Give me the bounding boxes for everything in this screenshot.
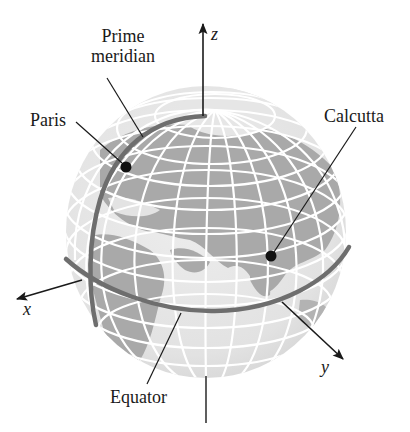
prime-meridian-label-line1: Prime	[70, 26, 176, 46]
prime-meridian-label-line2: meridian	[70, 46, 176, 66]
x-axis	[17, 280, 82, 299]
paris-dot	[121, 162, 132, 173]
x-axis-label: x	[23, 299, 31, 319]
y-axis-label: y	[321, 357, 329, 377]
globe-diagram	[0, 0, 410, 432]
calcutta-label: Calcutta	[324, 106, 384, 126]
globe	[64, 86, 348, 378]
z-axis-label: z	[211, 24, 218, 44]
equator-label: Equator	[110, 387, 167, 407]
paris-label: Paris	[30, 110, 66, 130]
prime-meridian-label: Prime meridian	[70, 26, 176, 66]
calcutta-dot	[266, 251, 277, 262]
